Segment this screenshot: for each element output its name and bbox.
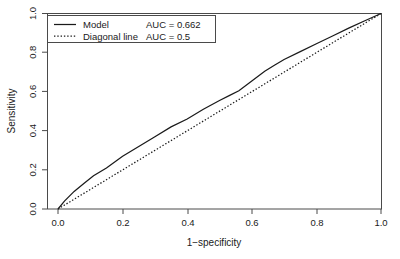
x-tick-label: 0.8 bbox=[310, 217, 323, 228]
x-tick-label: 1.0 bbox=[374, 217, 387, 228]
legend-label-diagonal: Diagonal line bbox=[83, 31, 138, 42]
roc-plot-canvas: 0.0 0.2 0.4 0.6 0.8 1.0 0.0 0.2 0.4 0.6 … bbox=[0, 0, 400, 259]
legend-auc-diagonal: AUC = 0.5 bbox=[146, 31, 190, 42]
x-tick-label: 0.6 bbox=[245, 217, 258, 228]
legend-label-model: Model bbox=[83, 19, 109, 30]
y-tick-label: 0.2 bbox=[27, 163, 38, 176]
y-tick-label: 0.8 bbox=[27, 46, 38, 59]
x-tick-label: 0.4 bbox=[181, 217, 194, 228]
x-tick-label: 0.2 bbox=[116, 217, 129, 228]
y-tick-label: 0.6 bbox=[27, 85, 38, 98]
y-axis-title: Sensitivity bbox=[6, 88, 17, 133]
legend: Model AUC = 0.662 Diagonal line AUC = 0.… bbox=[48, 16, 216, 43]
roc-curve-figure: 0.0 0.2 0.4 0.6 0.8 1.0 0.0 0.2 0.4 0.6 … bbox=[0, 0, 400, 259]
legend-auc-model: AUC = 0.662 bbox=[146, 19, 201, 30]
y-tick-label: 0.4 bbox=[27, 124, 38, 137]
x-axis-title: 1−specificity bbox=[187, 237, 242, 248]
y-tick-label: 0.0 bbox=[27, 202, 38, 215]
y-tick-label: 1.0 bbox=[27, 7, 38, 20]
x-tick-label: 0.0 bbox=[51, 217, 64, 228]
